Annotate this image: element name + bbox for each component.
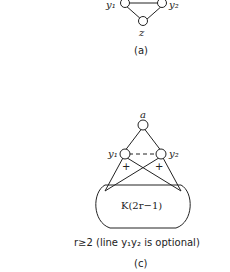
label-y1-a: y₁ [106,0,116,10]
label-y2-c: y₂ [169,149,179,159]
caption-a: (a) [134,46,148,56]
plus-sign-right: + [155,162,163,172]
plus-sign-left: + [122,162,130,172]
node-y1-c [120,149,130,159]
condition-text: r≥2 (line y₁y₂ is optional) [74,238,200,248]
label-z-a: z [139,28,144,38]
caption-c: (c) [134,259,147,269]
figure-a-graph [121,0,167,26]
figure-c-graph [96,120,190,228]
label-y1-c: y₁ [108,149,118,159]
label-a-c: a [140,110,146,120]
node-y1-a [121,0,130,8]
node-a-c [138,120,148,130]
node-y2-c [156,149,166,159]
label-y2-a: y₂ [169,0,179,10]
node-z-a [139,17,148,26]
node-y2-a [158,0,167,8]
clique-label: K(2r−1) [121,201,162,211]
diagram-canvas [0,0,230,272]
